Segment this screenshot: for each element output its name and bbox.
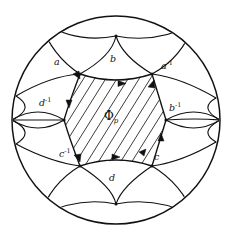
edge-label-c-inv: c-1	[59, 149, 71, 159]
spoke-arc-nw-2	[16, 74, 80, 96]
edge-label-d-inv: d-1	[39, 98, 51, 108]
vertex-s	[115, 203, 118, 206]
arrow-b	[118, 81, 126, 87]
vertex-se	[150, 164, 153, 167]
edge-label-b: b	[110, 54, 116, 64]
vertex-e	[164, 118, 167, 121]
arrow-a	[73, 71, 80, 79]
arrow-c	[139, 149, 146, 156]
spoke-arc-nw-1	[40, 22, 80, 74]
phi-p-label: Φp	[104, 110, 118, 122]
arrow-d-inv	[66, 100, 72, 108]
vertex-w	[62, 118, 65, 121]
edge-label-c: c	[154, 152, 159, 162]
edge-d	[80, 160, 152, 166]
edge-label-b-inv: b-1	[169, 103, 181, 113]
arrow-d	[112, 154, 120, 160]
spoke-arc-se-1	[152, 142, 216, 166]
corner-arc-n-right	[116, 36, 152, 74]
tile-arc-n-right	[116, 24, 194, 38]
spoke-arc-e	[166, 119, 220, 120]
tile-arc-s-right	[116, 202, 194, 216]
arrow-b-inv	[158, 133, 164, 141]
corner-arc-w-lower	[12, 120, 64, 128]
tile-arc-n-left	[40, 22, 116, 38]
edge-label-a: a	[54, 57, 60, 67]
spoke-arc-ne-2	[152, 74, 216, 98]
edge-b	[80, 74, 152, 80]
corner-arc-w-upper	[12, 112, 64, 120]
spoke-arc-se-2	[152, 166, 194, 216]
edge-label-a-inv: a-1	[161, 61, 173, 71]
vertex-sw	[78, 164, 81, 167]
edge-label-d: d	[109, 173, 115, 183]
corner-arc-e-lower	[166, 120, 220, 128]
edge-d-inv	[64, 74, 80, 120]
corner-arc-s-right	[116, 166, 152, 204]
vertex-ne	[150, 72, 153, 75]
figure-root: a b a-1 d-1 b-1 c-1 c d Φp	[0, 0, 232, 238]
vertex-n	[115, 35, 118, 38]
tile-arc-s-left	[40, 202, 116, 216]
